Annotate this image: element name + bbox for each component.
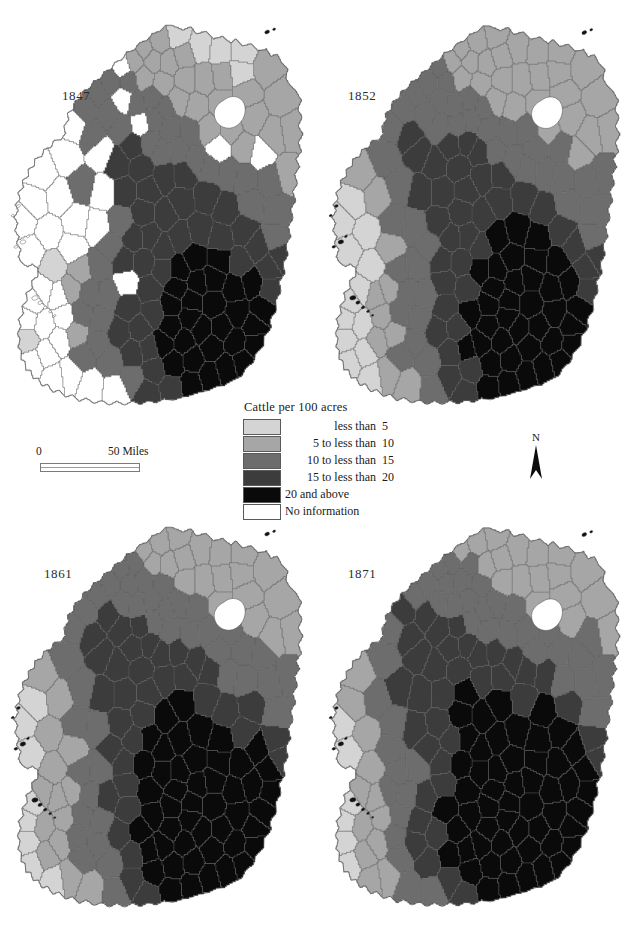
offshore-island xyxy=(332,245,336,249)
offshore-island xyxy=(581,30,587,35)
legend-swatch-class-1 xyxy=(243,419,281,435)
offshore-island xyxy=(589,28,593,31)
legend-swatch-class-2 xyxy=(243,436,281,452)
district-region xyxy=(231,541,258,565)
offshore-island xyxy=(272,529,276,532)
district-region xyxy=(512,565,531,598)
district-region xyxy=(159,375,183,399)
district-region xyxy=(195,564,215,598)
legend-label-class-2: 5 to less than xyxy=(281,436,382,451)
north-arrow-glyph xyxy=(528,444,544,480)
district-region xyxy=(134,751,155,780)
offshore-island xyxy=(581,532,587,537)
district-layer xyxy=(14,528,304,907)
offshore-island xyxy=(264,531,270,536)
legend-swatch-class-5 xyxy=(243,487,281,503)
district-layer xyxy=(14,26,304,405)
district-region xyxy=(451,750,472,779)
north-arrow-icon xyxy=(522,444,550,484)
legend-row: 5 to less than 10 xyxy=(243,435,408,452)
district-region xyxy=(114,175,137,209)
district-region xyxy=(134,249,155,278)
legend-row: 10 to less than 15 xyxy=(243,452,408,469)
scale-bar: 0 50 Miles xyxy=(28,445,178,461)
district-region xyxy=(432,677,454,710)
district-region xyxy=(512,63,531,96)
north-arrow: N xyxy=(522,432,550,484)
north-arrow-label: N xyxy=(522,432,550,443)
offshore-island xyxy=(589,530,593,533)
legend-swatch-class-3 xyxy=(243,453,281,469)
district-region xyxy=(231,39,258,63)
legend-label-class-1: less than xyxy=(281,419,382,434)
map-panel-1852 xyxy=(318,18,635,418)
scale-bar-labels: 0 50 Miles xyxy=(28,445,178,461)
district-region xyxy=(548,40,575,64)
district-region xyxy=(451,248,472,277)
legend-swatch-class-4 xyxy=(243,470,281,486)
map-svg-1852 xyxy=(318,18,635,418)
map-svg-1847 xyxy=(0,18,318,418)
offshore-island xyxy=(332,747,336,751)
year-label-1871: 1871 xyxy=(348,566,376,582)
legend-value-class-2: 10 xyxy=(382,436,408,451)
legend-label-class-5: 20 and above xyxy=(281,487,408,502)
district-layer xyxy=(331,26,620,403)
year-label-1852: 1852 xyxy=(348,88,376,104)
legend-row: 15 to less than 20 xyxy=(243,469,408,486)
legend-value-class-3: 15 xyxy=(382,453,408,468)
legend-label-no-information: No information xyxy=(281,504,408,519)
offshore-island xyxy=(14,245,18,249)
legend-label-class-3: 10 to less than xyxy=(281,453,382,468)
offshore-island xyxy=(272,27,276,30)
legend-swatch-no-information xyxy=(243,504,281,520)
district-region xyxy=(548,542,575,566)
district-region xyxy=(195,62,215,96)
district-layer xyxy=(331,528,620,905)
scale-bar-max-label: 50 Miles xyxy=(108,445,149,457)
legend-value-class-4: 20 xyxy=(382,470,408,485)
year-label-1861: 1861 xyxy=(44,566,72,582)
offshore-island xyxy=(264,29,270,34)
scale-bar-graphic xyxy=(40,463,140,472)
district-region xyxy=(477,375,501,399)
scale-bar-min-label: 0 xyxy=(36,445,42,457)
district-region xyxy=(432,175,454,208)
offshore-island xyxy=(14,747,18,751)
map-panel-1847 xyxy=(0,18,318,418)
district-region xyxy=(114,677,137,711)
legend-row: 20 and above xyxy=(243,486,408,503)
legend-value-class-1: 5 xyxy=(382,419,408,434)
legend-title: Cattle per 100 acres xyxy=(244,400,408,415)
map-legend: Cattle per 100 acres less than 5 5 to le… xyxy=(243,400,408,520)
district-region xyxy=(477,877,501,901)
legend-row: less than 5 xyxy=(243,418,408,435)
legend-label-class-4: 15 to less than xyxy=(281,470,382,485)
year-label-1847: 1847 xyxy=(62,88,90,104)
district-region xyxy=(159,877,183,901)
legend-row: No information xyxy=(243,503,408,520)
